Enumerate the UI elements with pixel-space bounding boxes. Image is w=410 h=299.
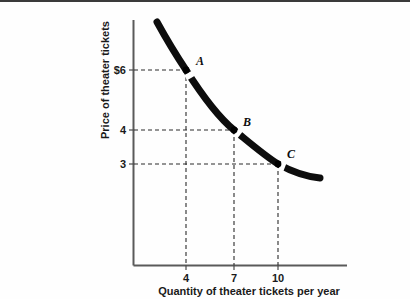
point-c-label: C [287, 147, 296, 161]
point-b-label: B [242, 115, 251, 129]
y-axis-title: Price of theater tickets [99, 21, 111, 139]
demand-curve-chart: A B C $6 4 3 4 7 10 Price of theater tic… [0, 2, 410, 299]
chart-screenshot: A B C $6 4 3 4 7 10 Price of theater tic… [0, 0, 410, 299]
demand-curve-group [157, 22, 320, 178]
point-c-dot [275, 161, 282, 168]
curve-break-b [236, 132, 240, 135]
x-tick-label-7: 7 [231, 272, 237, 284]
y-tick-label-4: 4 [120, 124, 127, 136]
x-axis-title: Quantity of theater tickets per year [158, 285, 340, 297]
x-tick-label-10: 10 [272, 272, 284, 284]
curve-break-a [188, 73, 191, 78]
point-a-label: A [195, 54, 204, 68]
point-a-dot [183, 67, 190, 74]
demand-curve-path [157, 22, 320, 178]
axes-group [134, 20, 348, 266]
point-b-dot [231, 127, 238, 134]
y-tick-label-3: 3 [120, 158, 126, 170]
x-tick-label-4: 4 [183, 272, 190, 284]
vertical-guides [186, 70, 278, 265]
y-tick-label-6: $6 [114, 64, 126, 76]
